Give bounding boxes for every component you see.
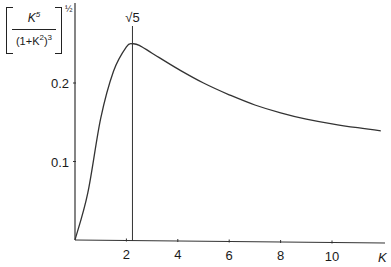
x-tick-label: 8 [277,248,284,263]
x-tick-label: 4 [174,247,181,262]
annotation-label: √5 [125,10,139,25]
y-tick-label: 0.1 [51,155,69,170]
axes [75,3,385,243]
x-tick-label: 2 [123,247,130,262]
ticks: 2468100.10.2 [51,76,339,264]
y-tick-label: 0.2 [51,76,69,91]
x-tick-label: 10 [325,249,339,264]
x-axis-label: K [378,250,388,265]
data-curve [75,44,381,240]
chart-plot: 2468100.10.2 √5 K [0,0,391,267]
x-axis [75,240,385,243]
x-tick-label: 6 [226,248,233,263]
